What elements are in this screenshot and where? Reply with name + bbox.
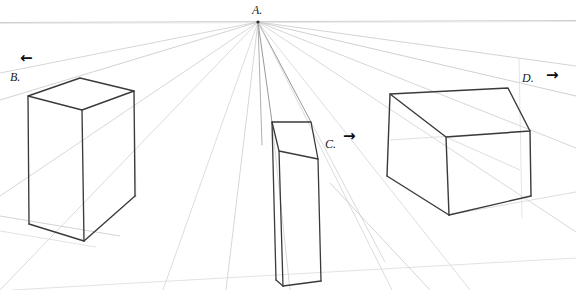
guide-left-ground-2 [0, 231, 96, 247]
box-d-edge-right-vertical [530, 131, 531, 196]
box-d [387, 88, 531, 215]
ground-guide-lines [0, 58, 576, 290]
ray-left-steep-2 [226, 22, 258, 290]
ray-box-c-right-edge [258, 22, 311, 122]
box-b-edge-right-vertical [134, 91, 135, 196]
guide-right-ground [448, 192, 576, 215]
ray-to-box-b-bottom-front [0, 22, 258, 290]
box-b-edge-left-vertical [28, 96, 29, 224]
ray-left-steep-1 [163, 22, 258, 290]
box-b-edge-bottom-left [29, 224, 84, 241]
ray-to-box-b-bottom-back [0, 22, 258, 196]
ray-right-steep-2 [258, 22, 392, 290]
box-b-top-face [28, 78, 134, 110]
ray-to-box-b-top-front [0, 22, 258, 100]
box-c-edge-bottom-front [283, 281, 321, 286]
box-d-top-face [390, 88, 530, 137]
left-arrow-icon: ← [20, 51, 33, 66]
box-d-edge-left-vertical [387, 94, 390, 176]
box-d-edge-bottom-left [387, 176, 449, 215]
drawing-canvas: A. B. C. D. ← → → [0, 0, 576, 290]
horizon-line-group [0, 21, 576, 24]
vanishing-point-dot [256, 20, 259, 23]
box-c-edge-bottom-left [276, 280, 283, 286]
label-c: C. [325, 138, 336, 150]
label-a: A. [252, 4, 262, 16]
label-d: D. [522, 72, 534, 84]
perspective-sketch [0, 0, 576, 290]
ray-center-vertical [258, 22, 262, 145]
construction-rays [0, 22, 576, 290]
ray-right-steep-1 [258, 22, 470, 290]
ray-to-box-b-top-back [0, 22, 258, 73]
guide-right-long [330, 183, 430, 290]
box-c [272, 122, 321, 286]
box-b [28, 78, 135, 241]
box-b-edge-front-vertical [82, 110, 84, 241]
label-b: B. [10, 71, 20, 83]
box-d-edge-bottom-right [449, 196, 531, 215]
right-arrow-icon-d: → [546, 68, 559, 83]
right-arrow-icon-c: → [343, 129, 356, 144]
box-c-edge-right-vertical [318, 159, 321, 281]
vanishing-point-a [256, 20, 259, 23]
box-d-edge-front-vertical [446, 137, 449, 215]
box-c-edge-left-vertical [272, 122, 276, 280]
